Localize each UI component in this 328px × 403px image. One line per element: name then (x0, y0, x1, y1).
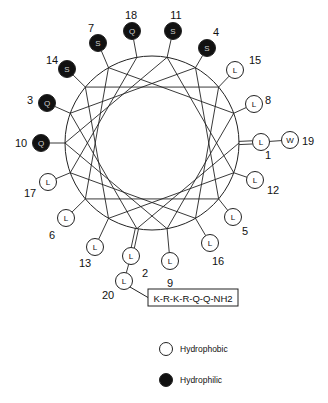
residue-number: 18 (125, 9, 137, 21)
legend-hydrophilic-label: Hydrophilic (180, 375, 223, 385)
residue-letter: L (259, 138, 264, 147)
bond-1-a (239, 144, 253, 145)
residue-number: 12 (267, 184, 279, 196)
spoke-6 (72, 199, 85, 212)
spoke-7 (101, 51, 108, 68)
residue-13: L13 (79, 239, 104, 270)
spoke-18 (134, 39, 137, 57)
residue-4: S4 (199, 26, 220, 57)
terminal-link-line (130, 287, 148, 298)
residue-1: L1 (253, 134, 272, 162)
residue-number: 5 (242, 225, 248, 237)
residue-8: L8 (246, 94, 272, 113)
residue-18: Q18 (124, 9, 141, 40)
residue-number: 15 (249, 54, 261, 66)
spoke-12 (234, 173, 247, 178)
spoke-13 (99, 218, 109, 239)
residue-20: L20 (102, 273, 133, 302)
residue-7: S7 (88, 22, 107, 52)
residue-15: L15 (227, 54, 262, 79)
spoke-11 (167, 39, 171, 57)
residue-letter: W (286, 136, 294, 145)
terminal-sequence-label: K-R-K-R-Q-Q-NH2 (153, 293, 232, 304)
spoke-9 (167, 229, 169, 253)
residue-number: 10 (15, 137, 27, 149)
chord-11-12 (167, 57, 234, 172)
residue-number: 8 (265, 94, 271, 106)
helix-chords (65, 57, 239, 228)
residue-letter: L (208, 239, 213, 248)
residue-letter: L (231, 213, 236, 222)
residue-16: L16 (202, 235, 225, 268)
residue-letter: S (204, 44, 209, 53)
spoke-8 (234, 108, 247, 114)
residue-number: 17 (24, 187, 36, 199)
residue-number: 3 (27, 94, 33, 106)
legend-hydrophobic-marker (160, 343, 173, 356)
chord-17-18 (70, 57, 137, 172)
spoke-5 (219, 199, 228, 210)
residue-letter: L (252, 100, 257, 109)
spoke-20 (126, 264, 128, 273)
spoke-4 (196, 55, 203, 67)
helical-wheel-diagram: L1L2Q3S4L5L6S7L8L9Q10S11L12L13S14L15L16L… (0, 0, 328, 403)
residue-5: L5 (225, 209, 249, 238)
residue-nodes: L1L2Q3S4L5L6S7L8L9Q10S11L12L13S14L15L16L… (15, 9, 314, 301)
residue-letter: S (170, 27, 175, 36)
residue-number: 16 (212, 255, 224, 267)
residue-letter: L (129, 252, 134, 261)
residue-number: 9 (167, 277, 173, 289)
residue-19: W19 (282, 132, 315, 149)
residue-letter: Q (38, 139, 44, 148)
terminal-sequence-box: K-R-K-R-Q-Q-NH2 (130, 287, 238, 306)
residue-14: S14 (46, 54, 76, 78)
residue-11: S11 (165, 9, 182, 40)
residue-letter: Q (44, 99, 50, 108)
spoke-15 (219, 76, 229, 87)
residue-spokes (50, 39, 282, 273)
residue-letter: S (64, 65, 69, 74)
residue-letter: L (46, 178, 51, 187)
residue-number: 14 (46, 54, 58, 66)
residue-letter: L (93, 243, 98, 252)
residue-number: 2 (142, 267, 148, 279)
spoke-3 (55, 106, 70, 113)
legend-hydrophobic-label: Hydrophobic (180, 344, 228, 354)
residue-letter: Q (129, 27, 135, 36)
residue-letter: L (64, 214, 69, 223)
residue-9: L9 (162, 253, 179, 290)
legend: Hydrophobic Hydrophilic (160, 343, 229, 387)
residue-number: 11 (170, 9, 181, 21)
residue-number: 1 (265, 149, 271, 161)
residue-10: Q10 (15, 135, 50, 152)
legend-hydrophilic-marker (160, 374, 173, 387)
residue-number: 4 (213, 26, 219, 38)
residue-letter: L (253, 176, 258, 185)
residue-12: L12 (247, 172, 280, 197)
residue-number: 7 (88, 22, 94, 34)
residue-number: 6 (49, 229, 55, 241)
residue-6: L6 (49, 210, 75, 242)
residue-letter: S (95, 39, 100, 48)
residue-number: 19 (302, 135, 314, 147)
residue-letter: L (168, 257, 173, 266)
bond-1-b (239, 141, 253, 142)
wheel-circle (65, 56, 239, 230)
spoke-19 (269, 141, 281, 142)
spoke-14 (73, 75, 85, 87)
spoke-16 (196, 218, 206, 235)
residue-letter: L (122, 277, 127, 286)
residue-number: 20 (102, 289, 114, 301)
residue-letter: L (233, 66, 238, 75)
residue-3: Q3 (27, 94, 56, 112)
residue-17: L17 (24, 174, 57, 200)
residue-number: 13 (79, 257, 91, 269)
spoke-17 (56, 173, 70, 179)
